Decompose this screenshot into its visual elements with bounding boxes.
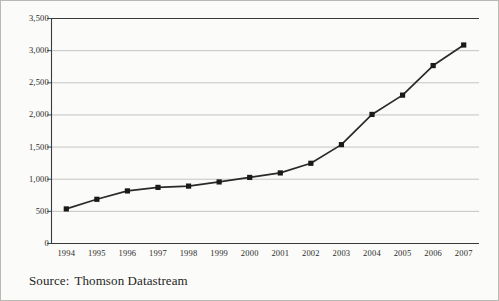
x-axis-tick-label: 2007 bbox=[444, 248, 484, 258]
source-value: Thomson Datastream bbox=[74, 273, 187, 288]
source-label: Source: bbox=[29, 273, 69, 288]
x-axis-tick-labels: 1994199519961997199819992000200120022003… bbox=[1, 1, 498, 300]
chart-page: 05001,0001,5002,0002,5003,0003,500 19941… bbox=[0, 0, 499, 301]
chart-figure: 05001,0001,5002,0002,5003,0003,500 19941… bbox=[1, 1, 498, 300]
source-caption: Source:Thomson Datastream bbox=[29, 273, 188, 289]
